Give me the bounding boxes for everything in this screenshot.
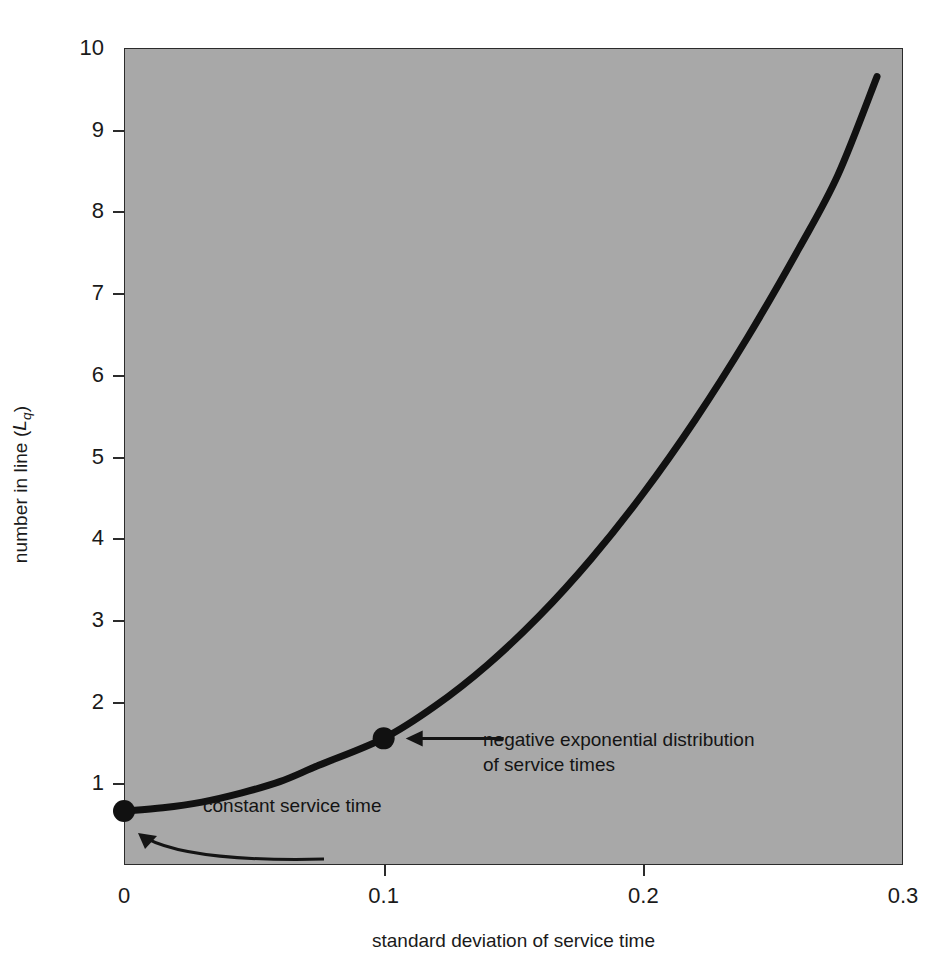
marker-constant-service-time (113, 800, 135, 822)
y-axis-ticks: 10987654321 (62, 0, 104, 969)
y-tick-label-10: 10 (64, 37, 104, 59)
x-tick-label-0.3: 0.3 (858, 884, 930, 908)
y-tick-label-9: 9 (64, 119, 104, 141)
x-axis-title: standard deviation of service time (124, 930, 903, 952)
y-tick-label-7: 7 (64, 282, 104, 304)
y-tick-mark-9 (113, 130, 124, 132)
y-tick-mark-3 (113, 620, 124, 622)
x-tick-mark-0.1 (384, 865, 386, 876)
y-tick-label-8: 8 (64, 200, 104, 222)
annotation-negative-exponential: negative exponential distribution of ser… (483, 727, 754, 777)
y-tick-label-3: 3 (64, 609, 104, 631)
x-tick-mark-0.2 (643, 865, 645, 876)
y-tick-mark-2 (113, 702, 124, 704)
arrow-line-constant (146, 838, 324, 859)
x-tick-label-0.2: 0.2 (598, 884, 688, 908)
marker-negative-exponential (373, 727, 395, 749)
x-tick-label-0.1: 0.1 (339, 884, 429, 908)
y-tick-mark-4 (113, 538, 124, 540)
y-tick-label-1: 1 (64, 772, 104, 794)
y-axis-title-text: number in line ( (10, 431, 32, 564)
y-tick-mark-8 (113, 211, 124, 213)
y-axis-title-close: ) (10, 406, 32, 412)
arrow-head-exponential (406, 730, 423, 746)
y-axis-title-symbol: Lq (9, 412, 34, 430)
y-tick-label-6: 6 (64, 364, 104, 386)
y-tick-mark-1 (113, 783, 124, 785)
y-tick-mark-5 (113, 457, 124, 459)
y-axis-title: number in line (Lq) (0, 0, 42, 969)
figure: 10987654321 00.10.20.3 negative exponent… (0, 0, 930, 969)
y-tick-label-2: 2 (64, 691, 104, 713)
y-tick-mark-7 (113, 293, 124, 295)
x-tick-label-0: 0 (79, 884, 169, 908)
y-tick-label-4: 4 (64, 527, 104, 549)
y-tick-label-5: 5 (64, 446, 104, 468)
annotation-constant-service-time: constant service time (203, 793, 381, 818)
y-tick-mark-6 (113, 375, 124, 377)
data-curve (124, 77, 877, 811)
